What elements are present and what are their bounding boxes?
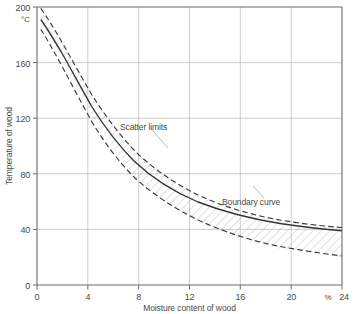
ytick-label-40: 40 bbox=[20, 225, 30, 235]
y-axis-unit-label: °C bbox=[21, 15, 30, 24]
ytick-label-200: 200 bbox=[16, 3, 31, 13]
y-axis-ticks bbox=[33, 7, 37, 285]
x-axis-title: Moisture content of wood bbox=[143, 303, 236, 313]
annotation-boundary-curve: Boundary curve bbox=[222, 197, 281, 207]
chart-container: 200 °C 160 120 80 40 0 0 4 8 12 16 20 % … bbox=[0, 0, 356, 314]
xtick-label-12: 12 bbox=[185, 292, 195, 302]
xtick-label-4: 4 bbox=[85, 292, 90, 302]
xtick-label-24: 24 bbox=[339, 292, 349, 302]
x-axis-ticks bbox=[37, 285, 342, 290]
ytick-label-160: 160 bbox=[16, 59, 31, 69]
xtick-label-8: 8 bbox=[136, 292, 141, 302]
temperature-moisture-chart: 200 °C 160 120 80 40 0 0 4 8 12 16 20 % … bbox=[0, 0, 356, 314]
ytick-label-0: 0 bbox=[25, 281, 30, 291]
xtick-label-0: 0 bbox=[35, 292, 40, 302]
ytick-label-80: 80 bbox=[20, 170, 30, 180]
annotation-scatter-limits: Scatter limits bbox=[120, 122, 167, 132]
y-axis-title: Temperature of wood bbox=[4, 107, 14, 185]
xtick-label-20: 20 bbox=[286, 292, 296, 302]
xtick-label-16: 16 bbox=[235, 292, 245, 302]
ytick-label-120: 120 bbox=[16, 114, 31, 124]
x-axis-unit-label: % bbox=[324, 293, 331, 302]
